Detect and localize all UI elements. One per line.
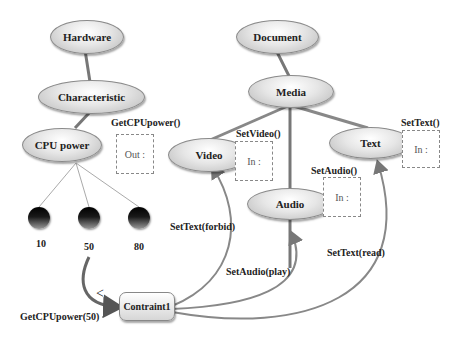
node-audio[interactable]: Audio (247, 188, 333, 220)
value-ball-10[interactable] (28, 207, 50, 229)
node-document[interactable]: Document (236, 20, 319, 54)
port-box-text-in[interactable]: In : (402, 130, 440, 168)
edge-label-get-cpu-power-50: GetCPUpower(50) (20, 311, 99, 322)
node-text[interactable]: Text (329, 127, 412, 159)
value-label-50: 50 (84, 241, 94, 252)
value-ball-50[interactable] (78, 207, 100, 229)
node-media[interactable]: Media (248, 75, 334, 108)
value-label-80: 80 (134, 241, 144, 252)
port-box-audio-in[interactable]: In : (323, 177, 361, 217)
edge-label-set-text-read: SetText(read) (327, 247, 385, 258)
value-label-10: 10 (36, 238, 46, 249)
port-label-set-audio: SetAudio() (311, 165, 357, 176)
edge-label-set-text-forbid: SetText(forbid) (170, 221, 235, 232)
value-ball-80[interactable] (128, 207, 150, 229)
port-label-get-cpu-power: GetCPUpower() (111, 117, 180, 128)
less-than-symbol: < (96, 286, 104, 302)
node-constraint[interactable]: Contraint1 (119, 292, 175, 321)
port-label-set-video: SetVideo() (236, 128, 281, 139)
node-cpu-power[interactable]: CPU power (22, 128, 102, 162)
node-characteristic[interactable]: Characteristic (38, 80, 145, 114)
port-label-set-text: SetText() (401, 117, 440, 128)
port-box-video-in[interactable]: In : (235, 141, 273, 181)
edge-label-set-audio-play: SetAudio(play) (226, 266, 290, 277)
port-box-out[interactable]: Out : (116, 134, 154, 174)
node-hardware[interactable]: Hardware (50, 20, 124, 54)
